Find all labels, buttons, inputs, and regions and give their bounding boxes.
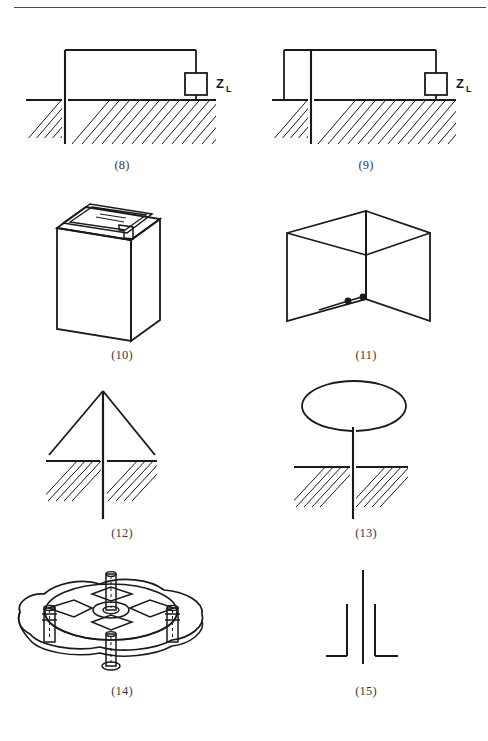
figure-13: (13)	[244, 379, 488, 524]
figure-11-artwork	[244, 198, 488, 350]
ground-hatch-left	[20, 90, 102, 148]
ground-hatch-right	[60, 88, 260, 158]
figure-12-caption: (12)	[0, 526, 244, 541]
plate-vertical-left	[287, 211, 366, 321]
radial-arm-back	[92, 587, 132, 601]
figure-12-artwork	[0, 379, 244, 524]
figure-9-caption: (9)	[244, 158, 488, 173]
load-label: Z L	[216, 76, 232, 94]
figure-11-caption: (11)	[244, 348, 488, 363]
slot-centre-line-2	[100, 214, 126, 218]
figure-10-caption: (10)	[0, 348, 244, 363]
plate-vertical-right	[366, 211, 430, 321]
load-label: Z L	[456, 76, 472, 94]
top-hat-ellipse	[302, 381, 406, 431]
ground-hatch-left	[266, 90, 348, 148]
plate-intersection-top-right	[366, 233, 430, 255]
figure-13-artwork	[244, 379, 488, 524]
figure-14-caption: (14)	[0, 684, 244, 699]
ground-hatch-right	[100, 445, 184, 501]
box-top-face	[57, 207, 160, 240]
figure-12: (12)	[0, 379, 244, 524]
figure-9-artwork: Z L	[244, 18, 488, 158]
feed-terminal-right	[360, 294, 367, 301]
load-impedance-box	[425, 73, 447, 95]
figure-10: (10)	[0, 198, 244, 350]
figure-10-artwork	[0, 198, 244, 350]
plate-intersection-top	[287, 233, 366, 255]
svg-text:L: L	[226, 84, 232, 94]
figure-15-caption: (15)	[244, 684, 488, 699]
figure-14: (14)	[0, 552, 244, 682]
feed-terminal-left	[345, 298, 352, 305]
top-load-wire-right	[103, 391, 155, 455]
svg-text:Z: Z	[216, 76, 224, 91]
figure-9: Z L (9)	[244, 18, 488, 158]
figure-page: Z L (8)	[0, 0, 488, 741]
figure-13-caption: (13)	[244, 526, 488, 541]
figure-15-artwork	[244, 552, 488, 682]
horizontal-rule	[14, 7, 486, 8]
box-front-face	[57, 228, 131, 341]
ground-hatch-right	[306, 88, 488, 158]
figure-8-artwork: Z L	[0, 18, 244, 158]
figure-grid: Z L (8)	[0, 18, 488, 706]
figure-14-artwork	[0, 552, 244, 682]
slot-centre-line	[96, 217, 124, 222]
ground-hatch-right	[348, 451, 432, 507]
load-impedance-box	[185, 73, 207, 95]
figure-row-2: (10)	[0, 186, 488, 371]
figure-15: (15)	[244, 552, 488, 682]
figure-11: (11)	[244, 198, 488, 350]
figure-8-caption: (8)	[0, 158, 244, 173]
figure-row-3: (12)	[0, 371, 488, 546]
figure-row-4: (14) (15)	[0, 546, 488, 706]
svg-text:L: L	[466, 84, 472, 94]
figure-8: Z L (8)	[0, 18, 244, 158]
svg-text:Z: Z	[456, 76, 464, 91]
ground-hatch-left	[40, 445, 124, 501]
top-load-wire-left	[49, 391, 103, 455]
ground-hatch-left	[288, 451, 372, 507]
figure-row-1: Z L (8)	[0, 18, 488, 186]
